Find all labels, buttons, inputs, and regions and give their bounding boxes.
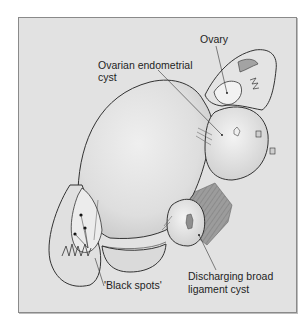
cyst-discharge	[186, 214, 193, 229]
label-ovarian-endometrial-cyst-line2: cyst	[98, 71, 117, 83]
label-broad-ligament-cyst-line2: ligament cyst	[188, 283, 249, 295]
ovarian-endometrial-cyst	[205, 107, 268, 180]
label-black-spots: 'Black spots'	[104, 279, 162, 291]
label-ovarian-endometrial-cyst-line1: Ovarian endometrial	[98, 59, 193, 71]
label-broad-ligament-cyst-line1: Discharging broad	[188, 270, 273, 282]
lower-uterine-segment	[102, 244, 166, 272]
label-ovary: Ovary	[200, 33, 228, 45]
right-tube	[205, 50, 276, 110]
